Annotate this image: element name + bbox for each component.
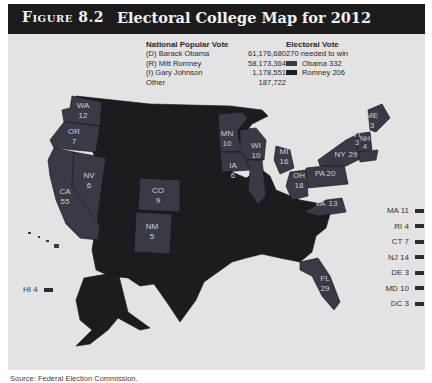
label-oh-ev: 18 bbox=[295, 181, 304, 190]
hawaii-label: HI 4 bbox=[23, 285, 38, 294]
small-states-list: MA 11 RI 4 CT 7 NJ 14 DE 3 MD 10 DC 3 bbox=[378, 203, 424, 312]
label-oh: OH bbox=[293, 171, 305, 180]
label-or-ev: 7 bbox=[72, 137, 77, 146]
label-nv: NV bbox=[83, 171, 95, 180]
label-pa-ev: 20 bbox=[327, 169, 336, 178]
state-co bbox=[138, 178, 180, 212]
source-note: Source: Federal Election Commission. bbox=[10, 374, 138, 383]
label-pa: PA bbox=[315, 169, 326, 178]
label-wa-ev: 12 bbox=[79, 111, 88, 120]
label-ny-ev: 29 bbox=[349, 150, 358, 159]
obama-swatch-icon bbox=[44, 288, 53, 292]
label-wi-ev: 10 bbox=[252, 151, 261, 160]
label-ca-ev: 55 bbox=[61, 197, 70, 206]
small-state-nj: NJ 14 bbox=[378, 250, 424, 266]
label-mn: MN bbox=[221, 129, 234, 138]
label-nm-ev: 5 bbox=[150, 232, 155, 241]
label-co-ev: 9 bbox=[156, 196, 161, 205]
label-fl: FL bbox=[320, 274, 330, 283]
label-me-ev: 3 bbox=[370, 121, 375, 130]
obama-swatch-icon bbox=[415, 224, 424, 228]
label-ca: CA bbox=[59, 187, 71, 196]
label-mi: MI bbox=[280, 147, 289, 156]
label-va: VA bbox=[315, 199, 326, 208]
label-ny: NY bbox=[334, 150, 346, 159]
obama-swatch-icon bbox=[415, 302, 424, 306]
small-state-ma: MA 11 bbox=[378, 203, 424, 219]
small-state-de: DE 3 bbox=[378, 265, 424, 281]
small-state-dc: DC 3 bbox=[378, 296, 424, 312]
state-hi bbox=[28, 232, 59, 248]
label-nv-ev: 6 bbox=[87, 181, 92, 190]
label-me: ME bbox=[366, 111, 378, 120]
us-electoral-map: WA 12 OR 7 NV 6 CA 55 CO 9 NM 5 MN 10 IA… bbox=[0, 0, 432, 383]
label-va-ev: 13 bbox=[329, 199, 338, 208]
obama-swatch-icon bbox=[415, 286, 424, 290]
label-fl-ev: 29 bbox=[321, 284, 330, 293]
label-ia-ev: 6 bbox=[231, 171, 236, 180]
label-mi-ev: 16 bbox=[280, 157, 289, 166]
label-wi: WI bbox=[251, 141, 261, 150]
small-state-ri: RI 4 bbox=[378, 219, 424, 235]
label-vt-ev: 3 bbox=[355, 139, 359, 146]
label-wa: WA bbox=[77, 101, 90, 110]
label-or: OR bbox=[68, 127, 80, 136]
obama-swatch-icon bbox=[415, 209, 424, 213]
obama-swatch-icon bbox=[415, 240, 424, 244]
label-nh: NH bbox=[360, 135, 370, 142]
label-mn-ev: 10 bbox=[223, 139, 232, 148]
small-state-ct: CT 7 bbox=[378, 234, 424, 250]
small-state-md: MD 10 bbox=[378, 281, 424, 297]
label-co: CO bbox=[152, 186, 164, 195]
label-ia: IA bbox=[229, 161, 237, 170]
hawaii-callout: HI 4 bbox=[23, 285, 53, 294]
label-nm: NM bbox=[146, 222, 159, 231]
obama-swatch-icon bbox=[415, 255, 424, 259]
state-ma-ct-ri bbox=[358, 150, 378, 162]
label-nh-ev: 4 bbox=[363, 143, 367, 150]
obama-swatch-icon bbox=[415, 271, 424, 275]
